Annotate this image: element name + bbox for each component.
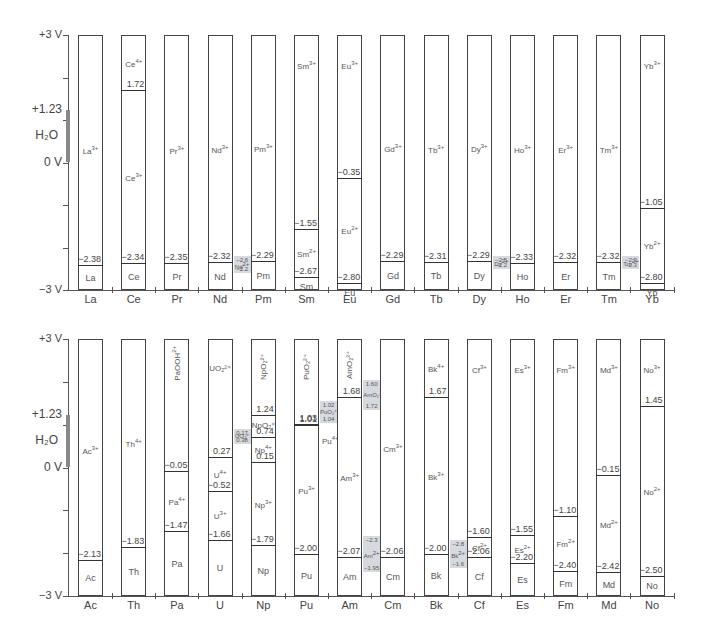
- y-axis: [68, 339, 69, 596]
- ion-label: Cf: [468, 572, 491, 582]
- column-U: UO₂²⁺0.27U4+−0.52U3+−1.66U: [208, 339, 233, 596]
- ion-label: U: [209, 563, 232, 573]
- ion-label: PuO₂²⁺: [302, 357, 311, 380]
- ion-label: Fm2+: [554, 538, 577, 549]
- boundary-line: [337, 397, 362, 398]
- side-ion-PuO₂⁺: 1.02PuO₂⁺1.04: [320, 401, 337, 422]
- x-label-Fm: Fm: [544, 599, 587, 611]
- column-No: No3+1.45No2+−2.50No: [640, 339, 665, 596]
- y-label-h2o-top: +1.23: [2, 407, 62, 421]
- y-label-top: +3 V: [2, 332, 62, 344]
- side-ion-AmO₂⁺: 1.60AmO₂⁺1.72: [363, 380, 380, 410]
- ion-label: Np: [252, 566, 275, 576]
- boundary-line: [424, 397, 449, 398]
- y-tick: [63, 468, 68, 469]
- boundary-line: [251, 545, 276, 546]
- side-ion: AmO₂⁺: [363, 391, 380, 398]
- potential-label: −2.20: [510, 552, 533, 562]
- ion-label: U4+: [209, 469, 232, 480]
- x-label-Np: Np: [242, 599, 285, 611]
- potential-label: 0.27: [213, 446, 231, 456]
- h2o-window-bar: [66, 415, 70, 468]
- ion-label: Fm3+: [554, 364, 577, 375]
- potential-label: −2.00: [294, 543, 317, 553]
- potential-label: −1.83: [121, 536, 144, 546]
- ion-label: Am: [338, 572, 361, 582]
- y-label-bottom: −3 V: [2, 589, 62, 601]
- side-upper: 1.60: [363, 381, 380, 387]
- boundary-line: [164, 471, 189, 472]
- ion-label: Md3+: [597, 364, 620, 375]
- potential-label: 1.67: [429, 386, 447, 396]
- ion-label: Cm: [381, 572, 404, 582]
- ion-label: Ac3+: [79, 445, 102, 456]
- column-Cm: Cm3+−2.06Cm: [380, 339, 405, 596]
- ion-label: U3+: [209, 510, 232, 521]
- potential-label: 1.68: [343, 386, 361, 396]
- x-label-Am: Am: [328, 599, 371, 611]
- side-ion: Bk2+: [450, 550, 467, 559]
- x-label-Md: Md: [587, 599, 630, 611]
- ion-label: Es3+: [511, 364, 534, 375]
- x-label-No: No: [631, 599, 674, 611]
- boundary-line: [121, 547, 146, 548]
- y-tick: [63, 382, 68, 383]
- side-upper: −2.3: [363, 537, 380, 543]
- boundary-line: [510, 535, 535, 536]
- ion-label: No: [641, 581, 664, 591]
- x-label-Ac: Ac: [69, 599, 112, 611]
- potential-label: −2.07: [337, 546, 360, 556]
- ion-label: Fm: [554, 579, 577, 589]
- ion-label: PaOOH2+: [172, 358, 183, 381]
- ion-label: Pu3+: [295, 485, 318, 496]
- x-label-Cm: Cm: [371, 599, 414, 611]
- ion-label: Np3+: [252, 499, 275, 510]
- boundary-line: [553, 571, 578, 572]
- potential-label: 0.74: [256, 426, 274, 436]
- pu4-note: Pu4+: [322, 435, 339, 446]
- boundary-line: [208, 457, 233, 458]
- boundary-line: [78, 560, 103, 561]
- ion-label: Es: [511, 575, 534, 585]
- y-tick: [63, 339, 68, 340]
- x-label-Pu: Pu: [285, 599, 328, 611]
- ion-label: Pa: [165, 559, 188, 569]
- potential-label: −1.55: [510, 524, 533, 534]
- column-Pu: PuO₂²⁺1.031.01Pu3+−2.00Pu: [294, 339, 319, 596]
- boundary-line: [337, 557, 362, 558]
- ion-label: Bk: [425, 571, 448, 581]
- boundary-line: [164, 531, 189, 532]
- side-lower: 0.38: [234, 437, 251, 443]
- x-label-Th: Th: [112, 599, 155, 611]
- boundary-line: [208, 491, 233, 492]
- ion-label: Cm3+: [381, 443, 404, 454]
- boundary-line: [596, 475, 621, 476]
- potential-label: 0.15: [256, 451, 274, 461]
- boundary-line: [467, 557, 492, 558]
- x-label-Cf: Cf: [458, 599, 501, 611]
- potential-label: −2.50: [640, 565, 663, 575]
- ion-label: UO₂²⁺: [209, 364, 232, 373]
- column-Np: NpO₂²⁺1.24NpO₂⁺0.74Np4+0.15Np3+−1.79Np: [251, 339, 276, 596]
- side-lower: −1.95: [363, 565, 380, 571]
- boundary-line: [467, 537, 492, 538]
- boundary-line: [596, 572, 621, 573]
- ion-label: No2+: [641, 486, 664, 497]
- ion-label: Cf3+: [468, 364, 491, 375]
- side-upper: −2.8: [450, 541, 467, 547]
- ion-label: NpO₂²⁺: [259, 357, 268, 380]
- boundary-line: [251, 462, 276, 463]
- side-ion-Am2+: −2.3Am2+−1.95: [363, 536, 380, 572]
- potential-label: −1.47: [165, 520, 188, 530]
- potential-label: −0.52: [208, 480, 231, 490]
- ion-label: Pa4+: [165, 496, 188, 507]
- side-ion: Am2+: [363, 550, 380, 559]
- potential-label: −1.79: [251, 534, 274, 544]
- ion-label: Th4+: [122, 438, 145, 449]
- potential-label: 1.45: [645, 395, 663, 405]
- side-lower: 1.04: [320, 416, 337, 422]
- y-tick: [63, 510, 68, 511]
- boundary-line: [640, 576, 665, 577]
- y-tick: [63, 553, 68, 554]
- boundary-line: [640, 406, 665, 407]
